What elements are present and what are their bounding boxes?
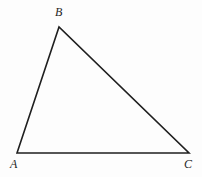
vertex-label-b: B bbox=[55, 6, 62, 18]
vertex-label-c: C bbox=[184, 158, 192, 170]
triangle-outline bbox=[17, 27, 189, 153]
vertex-label-a: A bbox=[10, 158, 17, 170]
triangle-figure bbox=[0, 0, 202, 177]
triangle-diagram: B A C bbox=[0, 0, 202, 177]
